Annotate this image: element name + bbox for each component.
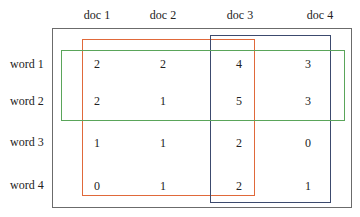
- row-header-word-1: word 1: [10, 57, 44, 71]
- row-header-word-3: word 3: [10, 135, 44, 149]
- matrix-cell: 5: [236, 94, 242, 108]
- matrix-cell: 3: [305, 57, 311, 71]
- matrix-cell: 2: [94, 94, 100, 108]
- matrix-cell: 3: [305, 94, 311, 108]
- matrix-cell: 1: [160, 94, 166, 108]
- row-header-word-2: word 2: [10, 94, 44, 108]
- matrix-cell: 0: [94, 179, 100, 193]
- column-header-doc-4: doc 4: [307, 8, 333, 22]
- column-header-doc-2: doc 2: [150, 8, 176, 22]
- matrix-cell: 4: [236, 57, 242, 71]
- row-header-word-4: word 4: [10, 178, 44, 192]
- matrix-cell: 1: [160, 179, 166, 193]
- matrix-cell: 1: [160, 136, 166, 150]
- matrix-cell: 2: [94, 57, 100, 71]
- matrix-cell: 2: [160, 57, 166, 71]
- green-highlight-box: [61, 50, 345, 121]
- matrix-cell: 1: [94, 136, 100, 150]
- matrix-cell: 2: [236, 136, 242, 150]
- matrix-cell: 1: [305, 179, 311, 193]
- column-header-doc-3: doc 3: [227, 8, 253, 22]
- matrix-cell: 2: [236, 179, 242, 193]
- matrix-cell: 0: [305, 136, 311, 150]
- column-header-doc-1: doc 1: [84, 8, 110, 22]
